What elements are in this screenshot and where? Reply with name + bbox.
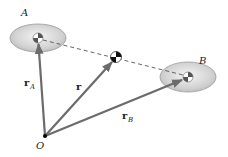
body-b-mass-center-icon <box>183 72 193 82</box>
body-b <box>160 62 216 92</box>
center-of-mass-icon <box>111 52 122 63</box>
label-origin: O <box>36 140 44 151</box>
origin-point <box>43 134 47 138</box>
vector-r-a <box>39 44 46 136</box>
body-a-mass-center-icon <box>33 33 43 43</box>
label-r-b-subscript: B <box>127 116 133 124</box>
label-r-a-subscript: A <box>29 83 35 91</box>
diagram-canvas: A B O r A r r B <box>0 0 228 157</box>
vector-r-b <box>45 80 182 136</box>
label-r: r <box>76 81 82 92</box>
label-b: B <box>198 55 206 66</box>
label-a: A <box>20 7 28 18</box>
center-of-mass-diagram: A B O r A r r B <box>0 0 228 157</box>
vector-r <box>45 62 112 136</box>
